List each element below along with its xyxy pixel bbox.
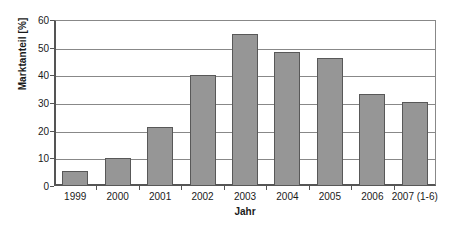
bar	[232, 34, 258, 186]
bar-slot	[266, 20, 308, 186]
y-tick-label: 0	[3, 181, 49, 192]
y-tick-label: 60	[3, 15, 49, 26]
bar	[62, 171, 88, 186]
y-tick-label: 10	[3, 153, 49, 164]
bar-slot	[394, 20, 436, 186]
x-tick-label: 2006	[361, 191, 383, 202]
x-tick-label: 2004	[276, 191, 298, 202]
y-tick-label: 20	[3, 125, 49, 136]
bar	[147, 127, 173, 186]
bar	[105, 158, 131, 186]
x-tick-mark	[266, 186, 267, 190]
x-tick-label: 2001	[149, 191, 171, 202]
x-tick-mark	[139, 186, 140, 190]
bar	[359, 94, 385, 186]
y-tick-label: 30	[3, 98, 49, 109]
bar-series	[54, 20, 436, 186]
x-tick-label: 1999	[64, 191, 86, 202]
x-tick-mark	[181, 186, 182, 190]
x-tick-label: 2003	[234, 191, 256, 202]
x-tick-label: 2000	[107, 191, 129, 202]
x-tick-label: 2005	[319, 191, 341, 202]
y-tick-label: 50	[3, 42, 49, 53]
bar-slot	[224, 20, 266, 186]
bar-slot	[351, 20, 393, 186]
x-tick-mark	[351, 186, 352, 190]
bar	[317, 58, 343, 186]
x-tick-mark	[96, 186, 97, 190]
x-axis-title: Jahr	[54, 206, 436, 217]
bar-slot	[96, 20, 138, 186]
bar-slot	[309, 20, 351, 186]
x-tick-label: 2007 (1-6)	[392, 191, 438, 202]
bar	[402, 102, 428, 186]
x-tick-mark	[309, 186, 310, 190]
y-tick-mark	[50, 186, 54, 187]
bar-chart: Marktanteil [%] 6050403020100 1999200020…	[0, 0, 451, 229]
bar	[274, 52, 300, 186]
x-tick-mark	[224, 186, 225, 190]
bar-slot	[54, 20, 96, 186]
bar	[190, 75, 216, 186]
x-tick-label: 2002	[191, 191, 213, 202]
bar-slot	[139, 20, 181, 186]
y-tick-label: 40	[3, 70, 49, 81]
bar-slot	[181, 20, 223, 186]
x-tick-mark	[394, 186, 395, 190]
